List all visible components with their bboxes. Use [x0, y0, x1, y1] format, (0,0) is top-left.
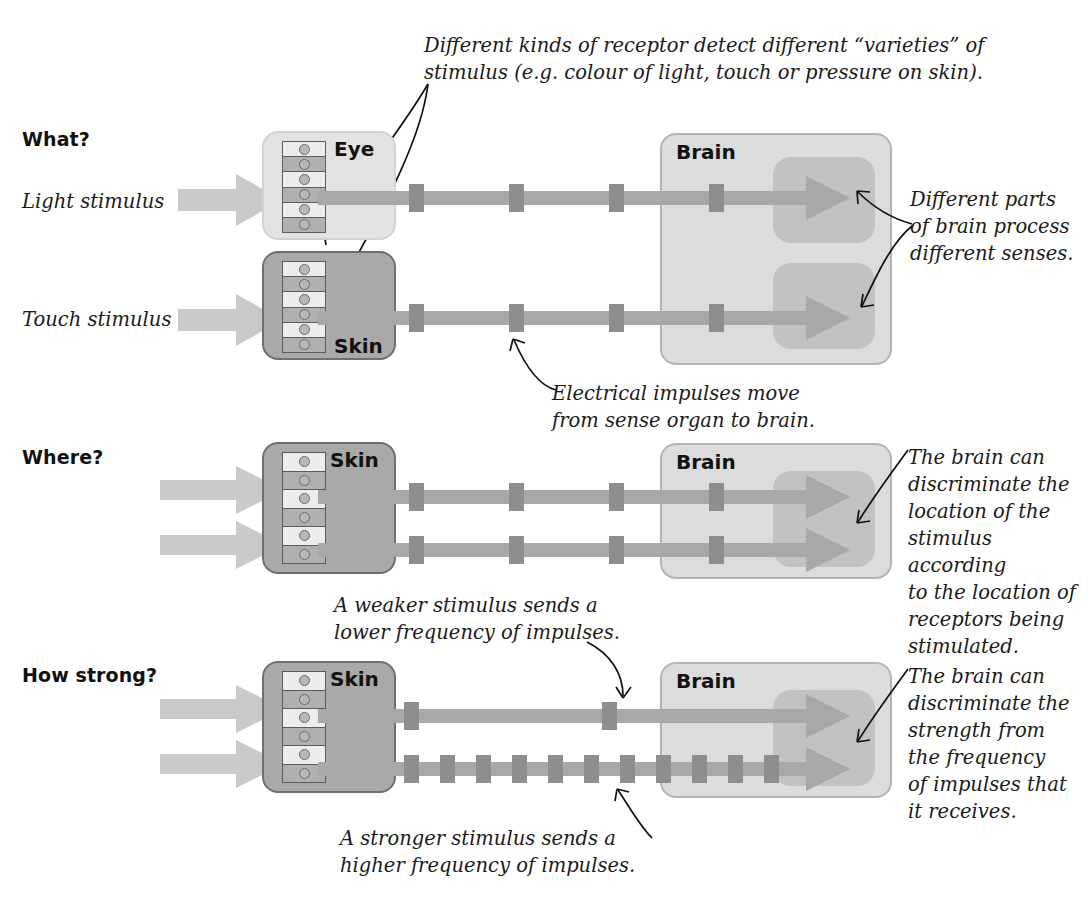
leader-line-strength-brain — [840, 667, 914, 757]
impulse-mark — [440, 755, 455, 783]
annotation-receptor-varieties: Different kinds of receptor detect diffe… — [424, 32, 1024, 86]
annotation-stronger-stimulus-line2: higher frequency of impulses. — [340, 852, 690, 879]
receptor-dot-icon — [299, 456, 310, 467]
leader-line-stronger-stimulus — [604, 786, 660, 842]
impulse-mark — [509, 536, 524, 564]
impulse-mark — [692, 755, 707, 783]
receptor-dot-icon — [299, 144, 310, 155]
impulse-mark — [409, 304, 424, 332]
receptor-dot-icon — [299, 204, 310, 215]
impulse-mark — [509, 184, 524, 212]
impulse-mark — [709, 483, 724, 511]
brain-label-what: Brain — [676, 140, 736, 164]
receptor-dot-icon — [299, 493, 310, 504]
nerve-pathway-where-lower — [318, 543, 818, 557]
impulse-mark — [509, 304, 524, 332]
annotation-impulses-move: Electrical impulses move from sense orga… — [552, 380, 852, 434]
annotation-strength-brain-line2: discriminate the — [908, 690, 1092, 717]
receptor-dot-icon — [299, 549, 310, 560]
receptor-strip-skin-what — [282, 261, 326, 353]
nerve-pathway-light — [318, 191, 818, 205]
annotation-strength-brain-line1: The brain can — [908, 663, 1092, 690]
annotation-strength-brain: The brain can discriminate the strength … — [908, 663, 1092, 825]
receptor-cell — [283, 218, 325, 232]
receptor-dot-icon — [299, 309, 310, 320]
leader-line-where-brain — [840, 448, 914, 538]
receptor-dot-icon — [299, 264, 310, 275]
impulse-mark — [584, 755, 599, 783]
annotation-strength-brain-line3: strength from — [908, 717, 1092, 744]
receptor-dot-icon — [299, 475, 310, 486]
receptor-dot-icon — [299, 324, 310, 335]
annotation-weaker-stimulus-line1: A weaker stimulus sends a — [334, 592, 664, 619]
leader-line-impulses-move — [500, 334, 562, 396]
receptor-strip-eye — [282, 141, 326, 233]
annotation-strength-brain-line6: it receives. — [908, 798, 1092, 825]
impulse-mark — [620, 755, 635, 783]
receptor-dot-icon — [299, 294, 310, 305]
impulse-mark — [609, 304, 624, 332]
annotation-brain-parts-line2: of brain process — [910, 213, 1090, 240]
receptor-dot-icon — [299, 749, 310, 760]
impulse-mark — [548, 755, 563, 783]
row-label-how-strong: How strong? — [22, 664, 157, 686]
receptor-cell — [283, 472, 325, 491]
annotation-brain-parts: Different parts of brain process differe… — [910, 186, 1090, 267]
annotation-receptor-varieties-line1: Different kinds of receptor detect diffe… — [424, 32, 1024, 59]
receptor-cell — [283, 292, 325, 307]
annotation-where-brain-line7: stimulated. — [908, 633, 1092, 660]
row-label-where: Where? — [22, 446, 103, 468]
receptor-cell — [283, 728, 325, 747]
impulse-mark — [764, 755, 779, 783]
annotation-receptor-varieties-line2: stimulus (e.g. colour of light, touch or… — [424, 59, 1024, 86]
brain-label-where: Brain — [676, 450, 736, 474]
annotation-weaker-stimulus: A weaker stimulus sends a lower frequenc… — [334, 592, 664, 646]
receptor-dot-icon — [299, 530, 310, 541]
organ-label-skin-strong: Skin — [330, 667, 379, 691]
annotation-where-brain-line1: The brain can — [908, 444, 1092, 471]
annotation-where-brain-line4: stimulus according — [908, 525, 1092, 579]
leader-line-weaker-stimulus — [585, 640, 641, 702]
impulse-mark — [609, 536, 624, 564]
nerve-pathway-strong — [318, 762, 818, 776]
impulse-mark — [512, 755, 527, 783]
stimulus-label-light: Light stimulus — [22, 190, 164, 213]
impulse-mark — [709, 304, 724, 332]
impulse-mark — [609, 483, 624, 511]
receptor-dot-icon — [299, 339, 310, 350]
impulse-mark — [409, 184, 424, 212]
receptor-cell — [283, 157, 325, 172]
annotation-where-brain-line6: receptors being — [908, 606, 1092, 633]
organ-label-skin-what: Skin — [334, 334, 383, 358]
receptor-dot-icon — [299, 694, 310, 705]
receptor-dot-icon — [299, 768, 310, 779]
impulse-mark — [656, 755, 671, 783]
annotation-brain-parts-line1: Different parts — [910, 186, 1090, 213]
receptor-dot-icon — [299, 174, 310, 185]
impulse-mark — [609, 184, 624, 212]
receptor-cell — [283, 338, 325, 352]
impulse-mark — [709, 536, 724, 564]
receptor-dot-icon — [299, 512, 310, 523]
receptor-cell — [283, 672, 325, 691]
impulse-mark — [409, 483, 424, 511]
receptor-dot-icon — [299, 731, 310, 742]
impulse-mark — [409, 536, 424, 564]
impulse-mark — [404, 702, 419, 730]
impulse-mark — [509, 483, 524, 511]
receptor-dot-icon — [299, 189, 310, 200]
annotation-where-brain-line3: location of the — [908, 498, 1092, 525]
impulse-mark — [709, 184, 724, 212]
annotation-strength-brain-line4: the frequency — [908, 744, 1092, 771]
annotation-impulses-move-line2: from sense organ to brain. — [552, 407, 852, 434]
impulse-mark — [728, 755, 743, 783]
receptor-dot-icon — [299, 159, 310, 170]
organ-label-skin-where: Skin — [330, 448, 379, 472]
row-label-what: What? — [22, 128, 90, 150]
impulse-mark — [602, 702, 617, 730]
receptor-dot-icon — [299, 279, 310, 290]
organ-label-eye: Eye — [334, 137, 374, 161]
receptor-dot-icon — [299, 712, 310, 723]
nerve-pathway-weak — [318, 709, 818, 723]
annotation-where-brain-line5: to the location of — [908, 579, 1092, 606]
